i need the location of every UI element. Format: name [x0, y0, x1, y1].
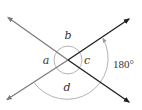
angle-label-d: d: [63, 81, 70, 94]
line-2-upper-right-segment: [68, 19, 129, 60]
arc-measure-label: 180°: [113, 58, 134, 70]
angle-label-c: c: [84, 54, 90, 67]
angle-label-b: b: [64, 29, 71, 42]
intersecting-lines-diagram: b a c d 180°: [0, 0, 142, 110]
angle-label-a: a: [43, 54, 50, 67]
line-2-lower-left-segment: [7, 60, 68, 100]
straight-angle-arc: [34, 39, 108, 100]
line-1-upper-left-segment: [8, 18, 68, 61]
